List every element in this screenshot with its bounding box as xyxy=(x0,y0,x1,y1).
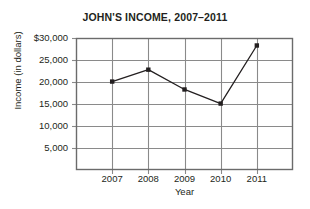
horizontal-gridlines xyxy=(76,39,293,149)
x-axis-tick-label: 2010 xyxy=(201,173,241,184)
income-line-chart: JOHN'S INCOME, 2007–2011 Income (in doll… xyxy=(0,0,310,209)
y-axis-tick-label: 20,000 xyxy=(0,77,68,87)
chart-title: JOHN'S INCOME, 2007–2011 xyxy=(0,11,310,23)
axis-tick-marks xyxy=(72,39,258,175)
data-point-marker xyxy=(255,43,259,47)
x-axis-tick-label: 2007 xyxy=(92,173,132,184)
x-axis-tick-label: 2009 xyxy=(165,173,205,184)
income-series-line xyxy=(112,45,257,103)
y-axis-tick-label: 10,000 xyxy=(0,121,68,131)
y-axis-tick-label: 5,000 xyxy=(0,143,68,153)
x-axis-title: Year xyxy=(76,186,293,197)
data-point-marker xyxy=(110,79,114,83)
y-axis-tick-label: 25,000 xyxy=(0,55,68,65)
x-axis-tick-labels: 20072008200920102011 xyxy=(76,173,293,186)
plot-area xyxy=(76,38,293,170)
x-axis-tick-label: 2011 xyxy=(237,173,277,184)
data-point-marker xyxy=(218,101,222,105)
data-point-marker xyxy=(182,87,186,91)
plot-svg xyxy=(76,38,293,170)
y-axis-tick-labels: 5,00010,00015,00020,00025,000$30,000 xyxy=(0,38,68,170)
x-axis-tick-label: 2008 xyxy=(128,173,168,184)
data-point-marker xyxy=(146,67,150,71)
y-axis-tick-label: $30,000 xyxy=(0,33,68,43)
y-axis-tick-label: 15,000 xyxy=(0,99,68,109)
